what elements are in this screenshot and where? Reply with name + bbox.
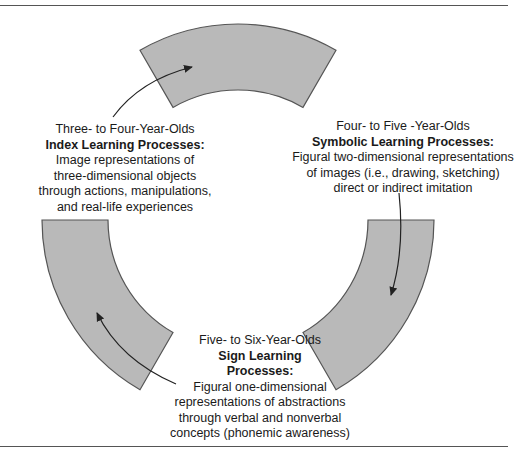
sign-desc-4: concepts (phonemic awareness): [140, 426, 380, 442]
index-stage-text: Three- to Four-Year-Olds Index Learning …: [5, 122, 245, 215]
symbolic-stage-text: Four- to Five -Year-Olds Symbolic Learni…: [278, 119, 520, 197]
sign-desc-1: Figural one-dimensional: [140, 380, 380, 396]
index-desc-4: and real-life experiences: [5, 200, 245, 216]
index-age: Three- to Four-Year-Olds: [5, 122, 245, 138]
sign-desc-2: representations of abstractions: [140, 395, 380, 411]
symbolic-age: Four- to Five -Year-Olds: [278, 119, 520, 135]
symbolic-desc-2: of images (i.e., drawing, sketching): [278, 166, 520, 182]
index-desc-2: three-dimensional objects: [5, 169, 245, 185]
sign-title-2: Processes:: [140, 364, 380, 380]
sign-age: Five- to Six-Year-Olds: [140, 333, 380, 349]
symbolic-desc-1: Figural two-dimensional representations: [278, 150, 520, 166]
index-desc-3: through actions, manipulations,: [5, 184, 245, 200]
ring-segment-top: [140, 24, 336, 107]
symbolic-title: Symbolic Learning Processes:: [278, 135, 520, 151]
symbolic-desc-3: direct or indirect imitation: [278, 181, 520, 197]
index-title: Index Learning Processes:: [5, 138, 245, 154]
index-desc-1: Image representations of: [5, 153, 245, 169]
sign-desc-3: through verbal and nonverbal: [140, 411, 380, 427]
sign-title-1: Sign Learning: [140, 349, 380, 365]
sign-stage-text: Five- to Six-Year-Olds Sign Learning Pro…: [140, 333, 380, 442]
